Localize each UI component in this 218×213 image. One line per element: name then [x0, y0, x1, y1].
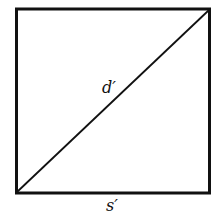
diagonal-line	[17, 10, 209, 192]
diagonal-label: d′	[102, 78, 116, 97]
side-label: s′	[106, 196, 118, 213]
square-diagram: d′ s′	[0, 0, 218, 213]
